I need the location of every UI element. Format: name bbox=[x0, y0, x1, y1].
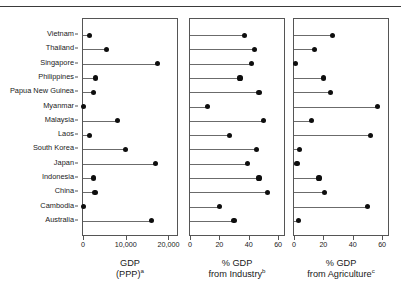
data-point-dot[interactable] bbox=[91, 90, 96, 95]
lollipop-stem bbox=[294, 192, 325, 193]
data-row bbox=[83, 92, 177, 93]
data-point-dot[interactable] bbox=[375, 104, 380, 109]
data-row bbox=[294, 107, 388, 108]
x-axis-gdp-agriculture: 0204060 bbox=[293, 236, 389, 258]
lollipop-stem bbox=[190, 207, 219, 208]
data-point-dot[interactable] bbox=[261, 118, 266, 123]
data-row bbox=[83, 221, 177, 222]
data-row bbox=[83, 35, 177, 36]
data-row bbox=[294, 64, 388, 65]
data-row bbox=[294, 135, 388, 136]
data-point-dot[interactable] bbox=[205, 104, 210, 109]
axis-title-line2-text: from Agriculture bbox=[307, 269, 371, 279]
data-row bbox=[190, 35, 284, 36]
data-point-dot[interactable] bbox=[91, 175, 96, 180]
data-row bbox=[294, 207, 388, 208]
data-point-dot[interactable] bbox=[237, 75, 242, 80]
data-point-dot[interactable] bbox=[316, 175, 321, 180]
x-axis-tick-label: 60 bbox=[378, 240, 386, 249]
axis-title-gdp-agriculture: % GDPfrom Agriculturec bbox=[271, 258, 401, 280]
data-point-dot[interactable] bbox=[265, 190, 270, 195]
data-point-dot[interactable] bbox=[293, 61, 298, 66]
data-row bbox=[83, 78, 177, 79]
x-axis-tick bbox=[219, 236, 220, 240]
data-point-dot[interactable] bbox=[297, 147, 302, 152]
axis-title-line2: from Agriculturec bbox=[271, 269, 401, 280]
axis-title-line1: % GDP bbox=[326, 258, 357, 268]
axis-title-line1: GDP bbox=[120, 258, 140, 268]
data-point-dot[interactable] bbox=[365, 204, 370, 209]
x-axis-tick bbox=[382, 236, 383, 240]
data-point-dot[interactable] bbox=[93, 75, 98, 80]
data-row bbox=[83, 121, 177, 122]
axis-title-line1: % GDP bbox=[222, 258, 253, 268]
data-point-dot[interactable] bbox=[330, 33, 335, 38]
data-point-dot[interactable] bbox=[92, 190, 97, 195]
data-point-dot[interactable] bbox=[294, 161, 299, 166]
data-point-dot[interactable] bbox=[115, 118, 120, 123]
data-point-dot[interactable] bbox=[328, 90, 333, 95]
data-point-dot[interactable] bbox=[245, 161, 250, 166]
x-axis-tick-label: 0 bbox=[188, 240, 192, 249]
data-point-dot[interactable] bbox=[249, 61, 254, 66]
data-point-dot[interactable] bbox=[104, 47, 109, 52]
lollipop-stem bbox=[294, 135, 370, 136]
data-row bbox=[83, 135, 177, 136]
data-row bbox=[294, 164, 388, 165]
x-axis-tick bbox=[294, 236, 295, 240]
lollipop-stem bbox=[83, 164, 156, 165]
data-point-dot[interactable] bbox=[123, 147, 128, 152]
header-rule bbox=[0, 6, 401, 7]
data-point-dot[interactable] bbox=[155, 61, 160, 66]
x-axis-tick bbox=[83, 236, 84, 240]
data-point-dot[interactable] bbox=[87, 133, 92, 138]
plot-area bbox=[190, 19, 284, 235]
x-axis-tick-label: 0 bbox=[292, 240, 296, 249]
x-axis-tick-label: 40 bbox=[245, 240, 253, 249]
lollipop-stem bbox=[83, 149, 126, 150]
lollipop-stem bbox=[83, 64, 158, 65]
panels-row: 010,00020,000GDP(PPP)a0204060% GDPfrom I… bbox=[0, 18, 401, 240]
data-row bbox=[83, 49, 177, 50]
axis-title-line2-text: from Industry bbox=[208, 269, 262, 279]
lollipop-stem bbox=[190, 164, 247, 165]
data-point-dot[interactable] bbox=[231, 218, 236, 223]
data-point-dot[interactable] bbox=[242, 33, 247, 38]
data-point-dot[interactable] bbox=[153, 161, 158, 166]
data-point-dot[interactable] bbox=[254, 147, 259, 152]
data-point-dot[interactable] bbox=[227, 133, 232, 138]
data-point-dot[interactable] bbox=[368, 133, 373, 138]
lollipop-stem bbox=[190, 149, 256, 150]
data-row bbox=[83, 164, 177, 165]
data-row bbox=[294, 35, 388, 36]
figure-container: VietnamThailandSingaporePhilippinesPapua… bbox=[0, 0, 401, 295]
lollipop-stem bbox=[190, 192, 268, 193]
data-point-dot[interactable] bbox=[321, 75, 326, 80]
x-axis-tick bbox=[278, 236, 279, 240]
data-point-dot[interactable] bbox=[296, 218, 301, 223]
data-row bbox=[190, 121, 284, 122]
x-axis-tick-label: 20 bbox=[215, 240, 223, 249]
data-point-dot[interactable] bbox=[256, 175, 261, 180]
data-point-dot[interactable] bbox=[149, 218, 154, 223]
data-row bbox=[83, 107, 177, 108]
data-point-dot[interactable] bbox=[322, 190, 327, 195]
axis-title-line2-text: (PPP) bbox=[116, 269, 141, 279]
data-point-dot[interactable] bbox=[309, 118, 314, 123]
x-axis-tick-label: 10,000 bbox=[115, 240, 137, 249]
lollipop-stem bbox=[190, 64, 252, 65]
data-point-dot[interactable] bbox=[252, 47, 257, 52]
lollipop-stem bbox=[294, 92, 331, 93]
data-point-dot[interactable] bbox=[256, 90, 261, 95]
data-point-dot[interactable] bbox=[87, 33, 92, 38]
data-row bbox=[294, 221, 388, 222]
data-row bbox=[190, 135, 284, 136]
data-row bbox=[294, 49, 388, 50]
data-point-dot[interactable] bbox=[81, 204, 86, 209]
data-point-dot[interactable] bbox=[217, 204, 222, 209]
lollipop-stem bbox=[190, 35, 244, 36]
data-row bbox=[83, 149, 177, 150]
data-point-dot[interactable] bbox=[312, 47, 317, 52]
axis-title-footnote-marker: c bbox=[372, 267, 375, 274]
data-point-dot[interactable] bbox=[81, 104, 86, 109]
